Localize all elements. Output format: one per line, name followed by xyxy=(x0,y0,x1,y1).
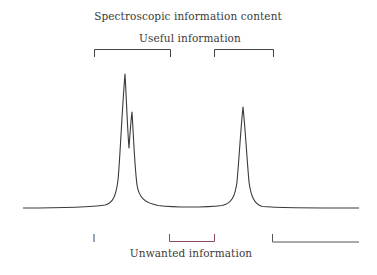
unwanted-bracket-left xyxy=(23,234,94,242)
unwanted-bracket-right xyxy=(273,234,360,242)
spectrum-diagram xyxy=(0,0,377,275)
spectrum-curve xyxy=(23,74,359,208)
unwanted-bracket-middle xyxy=(170,234,215,242)
useful-bracket-left xyxy=(95,50,171,58)
useful-bracket-right xyxy=(215,50,274,58)
